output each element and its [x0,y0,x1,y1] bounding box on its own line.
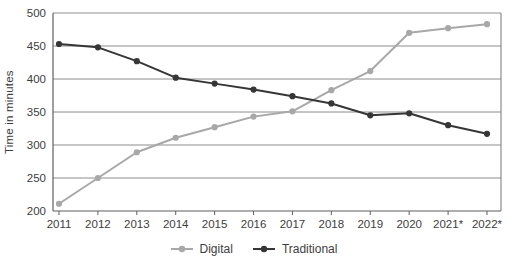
data-point-digital [406,30,412,36]
data-point-digital [56,201,62,207]
data-point-digital [95,175,101,181]
data-point-traditional [367,112,373,118]
x-tick-label: 2018 [319,218,345,230]
x-tick-label: 2017 [280,218,306,230]
data-point-traditional [56,41,62,47]
y-tick-label: 400 [27,73,46,85]
y-tick-label: 450 [27,40,46,52]
data-point-traditional [134,58,140,64]
data-point-digital [445,25,451,31]
x-tick-label: 2019 [357,218,383,230]
traditional-series-marker-icon [253,245,275,253]
data-point-traditional [212,81,218,87]
x-tick-label: 2012 [85,218,111,230]
series-line-digital [59,24,487,204]
series-line-traditional [59,44,487,134]
x-tick-label: 2021* [433,218,464,230]
data-point-traditional [173,75,179,81]
data-point-digital [250,114,256,120]
data-point-traditional [484,131,490,137]
y-tick-label: 250 [27,172,46,184]
x-tick-label: 2020 [396,218,422,230]
x-tick-label: 2014 [163,218,189,230]
data-point-digital [328,87,334,93]
y-tick-label: 350 [27,106,46,118]
line-chart: Time in minutes 200250300350400450500201… [0,0,508,263]
x-tick-label: 2013 [124,218,150,230]
data-point-traditional [445,122,451,128]
data-point-traditional [328,100,334,106]
y-tick-label: 200 [27,205,46,217]
x-tick-label: 2011 [47,218,72,230]
plot-area: 2002503003504004505002011201220132014201… [0,0,508,263]
x-tick-label: 2022* [472,218,503,230]
legend-label-digital: Digital [200,242,233,256]
data-point-traditional [289,93,295,99]
data-point-digital [367,68,373,74]
y-tick-label: 500 [27,7,46,19]
data-point-digital [484,21,490,27]
legend-item-digital: Digital [171,242,233,256]
data-point-digital [289,108,295,114]
legend-label-traditional: Traditional [282,242,338,256]
x-tick-label: 2015 [202,218,228,230]
data-point-digital [212,124,218,130]
legend-item-traditional: Traditional [253,242,338,256]
data-point-traditional [250,86,256,92]
y-tick-label: 300 [27,139,46,151]
data-point-traditional [95,44,101,50]
data-point-digital [173,135,179,141]
data-point-digital [134,149,140,155]
x-tick-label: 2016 [241,218,267,230]
digital-series-marker-icon [171,245,193,253]
legend: Digital Traditional [0,240,508,258]
data-point-traditional [406,110,412,116]
